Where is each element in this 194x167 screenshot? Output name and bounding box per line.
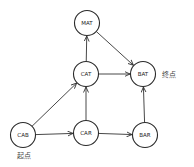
node-label: MAT — [81, 20, 93, 26]
edge-mat-to-bat — [96, 31, 133, 65]
edge-car-to-bar — [98, 133, 132, 134]
end-label: 终点 — [162, 70, 176, 79]
edge-cab-to-cat — [32, 83, 77, 126]
start-label: 起点 — [17, 152, 31, 160]
node-mat: MAT — [75, 11, 100, 36]
node-label: CAB — [17, 132, 29, 138]
edge-cab-to-car — [35, 133, 73, 134]
node-label: BAR — [139, 132, 151, 138]
node-cab: CAB — [11, 123, 36, 148]
graph-diagram: MATCATBATCABCARBAR 起点 终点 — [0, 0, 194, 167]
node-label: CAT — [81, 71, 92, 77]
node-bar: BAR — [133, 123, 158, 148]
edge-cat-to-mat — [86, 36, 87, 62]
edge-bar-to-bat — [143, 87, 144, 123]
node-cat: CAT — [74, 62, 99, 87]
node-bat: BAT — [131, 62, 156, 87]
node-car: CAR — [74, 121, 99, 146]
node-label: BAT — [138, 71, 149, 77]
node-label: CAR — [80, 130, 92, 136]
